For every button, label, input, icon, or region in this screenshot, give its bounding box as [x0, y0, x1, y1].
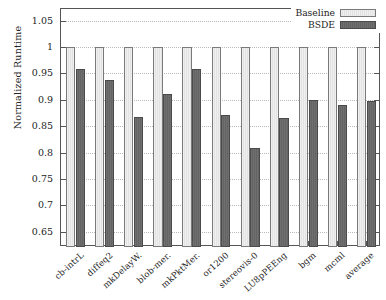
bar-baseline: [66, 47, 75, 247]
bar-baseline: [328, 47, 337, 247]
x-tick-mark: [279, 241, 280, 245]
y-tick-label: 0.8: [0, 146, 53, 157]
bar-bsde: [76, 69, 85, 247]
x-tick-mark: [76, 241, 77, 245]
bar-bsde: [221, 115, 230, 247]
bar-baseline: [299, 47, 308, 247]
legend-item: BSDE: [295, 19, 376, 31]
x-tick-label: mcml: [322, 250, 347, 274]
x-tick-mark: [337, 241, 338, 245]
x-tick-mark: [105, 241, 106, 245]
y-tick-label: 0.9: [0, 93, 53, 104]
bar-baseline: [124, 47, 133, 247]
x-tick-label: average: [343, 250, 376, 281]
x-tick-mark: [134, 241, 135, 245]
x-tick-label: bgm: [297, 250, 318, 270]
bar-bsde: [338, 105, 347, 247]
x-tick-mark: [308, 241, 309, 245]
bar-baseline: [95, 47, 104, 247]
x-tick-mark: [366, 241, 367, 245]
bar-bsde: [309, 100, 318, 247]
bar-bsde: [367, 101, 376, 247]
y-tick-label: 0.95: [0, 67, 53, 78]
y-tick-label: 0.7: [0, 199, 53, 210]
plot-area: [60, 8, 380, 246]
legend-swatch: [340, 21, 376, 29]
bar-baseline: [357, 47, 366, 247]
bar-bsde: [192, 69, 201, 247]
y-tick-label: 0.85: [0, 120, 53, 131]
chart-legend: BaselineBSDE: [291, 5, 380, 33]
bar-bsde: [105, 80, 114, 247]
x-tick-mark: [250, 241, 251, 245]
bars-layer: [61, 9, 379, 245]
bar-baseline: [153, 47, 162, 247]
x-tick-mark: [163, 241, 164, 245]
legend-label: BSDE: [308, 19, 335, 31]
bar-baseline: [241, 47, 250, 247]
bar-bsde: [163, 94, 172, 247]
y-tick-label: 1: [0, 40, 53, 51]
bar-chart-figure: Normalized Runtime cb-intrLdiffeq2mkDela…: [0, 0, 386, 300]
y-tick-label: 0.75: [0, 172, 53, 183]
y-tick-label: 1.05: [0, 14, 53, 25]
y-tick-label: 0.65: [0, 225, 53, 236]
legend-item: Baseline: [295, 7, 376, 19]
bar-bsde: [250, 148, 259, 247]
bar-baseline: [182, 47, 191, 247]
legend-swatch: [340, 9, 376, 17]
bar-bsde: [279, 118, 288, 247]
legend-label: Baseline: [295, 7, 335, 19]
x-tick-mark: [192, 241, 193, 245]
bar-baseline: [270, 47, 279, 247]
bar-baseline: [212, 47, 221, 247]
x-tick-mark: [221, 241, 222, 245]
bar-bsde: [134, 117, 143, 247]
x-tick-label: cb-intrL: [52, 250, 85, 281]
